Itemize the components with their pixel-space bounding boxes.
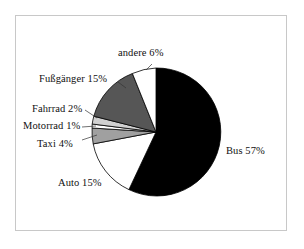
pie-label-fahrrad: Fahrrad 2% [32, 104, 82, 115]
pie-label-auto: Auto 15% [58, 178, 102, 189]
pie-label-taxi: Taxi 4% [37, 139, 73, 150]
pie-chart-figure: andere 6% Fußgänger 15% Fahrrad 2% Motor… [0, 0, 304, 249]
pie-label-fussgaenger: Fußgänger 15% [39, 74, 107, 85]
pie-label-motorrad: Motorrad 1% [23, 121, 80, 132]
pie-label-andere: andere 6% [118, 48, 164, 59]
pie-label-bus: Bus 57% [226, 146, 265, 157]
